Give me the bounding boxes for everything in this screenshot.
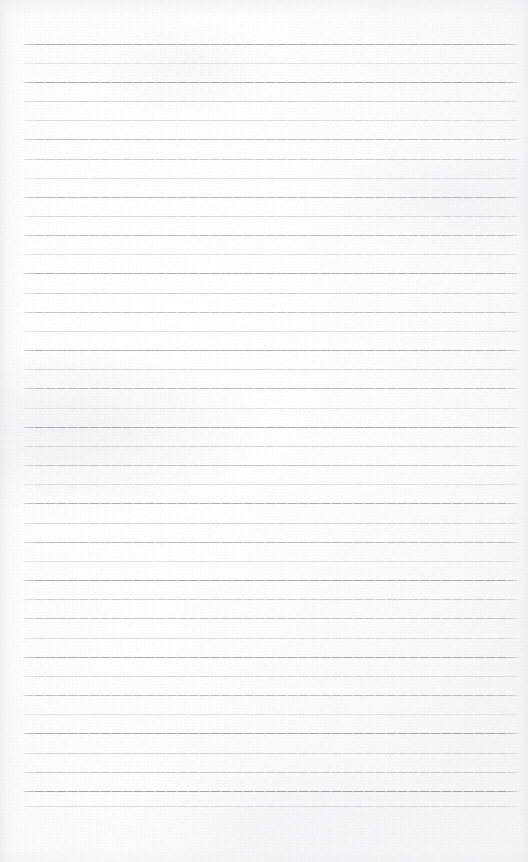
writing-area[interactable] (22, 44, 521, 806)
scanned-page (0, 0, 528, 862)
